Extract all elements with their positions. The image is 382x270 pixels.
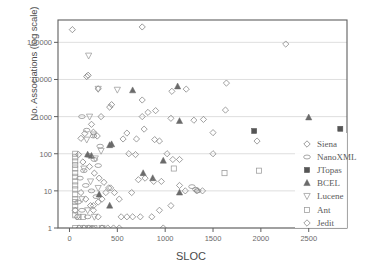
legend-item-ant[interactable]: Ant xyxy=(297,203,357,216)
legend-label: NanoXML xyxy=(317,152,357,162)
legend: SienaNanoXMLJTopasBCELLuceneAntJedit xyxy=(297,137,357,229)
x-tick-label: 2500 xyxy=(289,234,329,243)
y-tick-label: 10000 xyxy=(10,75,52,84)
legend-label: Ant xyxy=(317,205,331,215)
x-tick-label: 1500 xyxy=(193,234,233,243)
legend-label: BCEL xyxy=(317,178,340,188)
legend-item-nanoxml[interactable]: NanoXML xyxy=(297,150,357,163)
diamond-open-icon xyxy=(297,138,317,150)
legend-item-bcel[interactable]: BCEL xyxy=(297,177,357,190)
y-tick-label: 100000 xyxy=(10,38,52,47)
square-open-icon xyxy=(297,204,317,216)
y-tick-label: 1 xyxy=(10,224,52,233)
y-tick-label: 10 xyxy=(10,186,52,195)
diamond-open-icon xyxy=(297,217,317,229)
legend-item-jtopas[interactable]: JTopas xyxy=(297,163,357,176)
scatter-chart xyxy=(0,0,382,270)
triangle-down-open-icon xyxy=(297,190,317,202)
x-tick-label: 1000 xyxy=(145,234,185,243)
x-tick-label: 2000 xyxy=(241,234,281,243)
x-tick-label: 0 xyxy=(49,234,89,243)
triangle-up-filled-icon xyxy=(297,177,317,189)
x-axis-title: SLOC xyxy=(0,250,382,262)
legend-label: Jedit xyxy=(317,218,334,228)
data-point xyxy=(338,126,343,131)
legend-item-jedit[interactable]: Jedit xyxy=(297,216,357,229)
legend-label: JTopas xyxy=(317,165,342,175)
legend-label: Lucene xyxy=(317,191,343,201)
legend-label: Siena xyxy=(317,139,337,149)
y-tick-label: 1000 xyxy=(10,112,52,121)
x-tick-label: 500 xyxy=(97,234,137,243)
ellipse-open-icon xyxy=(297,151,317,163)
data-point xyxy=(252,128,257,133)
legend-item-siena[interactable]: Siena xyxy=(297,137,357,150)
y-tick-label: 100 xyxy=(10,149,52,158)
square-filled-icon xyxy=(297,164,317,176)
legend-item-lucene[interactable]: Lucene xyxy=(297,190,357,203)
